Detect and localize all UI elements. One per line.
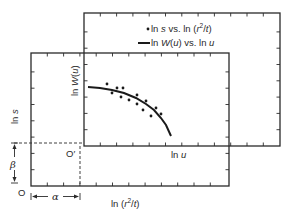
data-point <box>136 103 139 106</box>
data-point <box>122 87 125 90</box>
data-point <box>120 96 123 99</box>
ln-s-axis-label: ln s <box>9 109 20 124</box>
ln-u-axis-label: ln u <box>171 149 187 160</box>
data-point <box>142 109 145 112</box>
lower-plot-ticks <box>31 53 229 186</box>
data-point <box>106 83 109 86</box>
data-point <box>150 115 153 118</box>
legend: ln s vs. ln (r2/t) ln W(u) vs. ln u <box>138 22 215 48</box>
lower-plot-frame <box>31 53 229 186</box>
data-points <box>106 83 163 118</box>
origin-o-prime-label: O′ <box>66 148 75 159</box>
origin-o-label: O <box>18 187 25 198</box>
legend-item-data: ln s vs. ln (r2/t) <box>151 22 212 34</box>
legend-dot-marker <box>147 28 150 31</box>
data-point <box>116 87 119 90</box>
type-curve-matching-diagram: β α O O′ ln u ln W(u) ln (r2/t) ln s ln … <box>0 0 291 216</box>
lower-plot <box>31 53 229 186</box>
data-point <box>145 100 148 103</box>
ln-r2-t-axis-label: ln (r2/t) <box>111 197 139 209</box>
data-point <box>136 94 139 97</box>
legend-item-type-curve: ln W(u) vs. ln u <box>151 37 215 48</box>
data-point <box>155 107 158 110</box>
alpha-label: α <box>52 191 59 202</box>
data-point <box>160 113 163 116</box>
ln-wu-axis-label: ln W(u) <box>69 65 80 96</box>
beta-label: β <box>9 159 16 170</box>
data-point <box>111 92 114 95</box>
data-point <box>128 99 131 102</box>
type-curve <box>88 87 171 136</box>
